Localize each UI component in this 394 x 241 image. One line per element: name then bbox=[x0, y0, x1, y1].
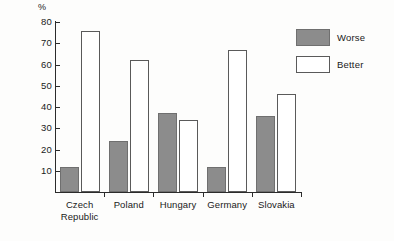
y-axis-tick bbox=[55, 65, 60, 66]
legend-label: Better bbox=[337, 59, 364, 70]
y-axis-tick-label: 60 bbox=[12, 59, 52, 70]
category-label-hungary: Hungary bbox=[153, 199, 202, 211]
y-axis-tick-label: 50 bbox=[12, 80, 52, 91]
y-axis-tick-label: 10 bbox=[12, 165, 52, 176]
category-label-line: Hungary bbox=[153, 199, 202, 211]
legend-swatch-worse bbox=[296, 29, 330, 46]
y-axis-tick-label: 70 bbox=[12, 37, 52, 48]
legend-item-worse[interactable]: Worse bbox=[296, 26, 365, 48]
y-axis-tick-label: 80 bbox=[12, 16, 52, 27]
bar-worse-germany bbox=[207, 167, 226, 193]
y-axis-tick bbox=[55, 150, 60, 151]
chart-legend: WorseBetter bbox=[296, 26, 365, 80]
y-axis-tick bbox=[55, 128, 60, 129]
legend-label: Worse bbox=[337, 32, 365, 43]
y-axis-tick bbox=[55, 43, 60, 44]
y-axis-tick-label: 20 bbox=[12, 144, 52, 155]
category-label-germany: Germany bbox=[203, 199, 252, 211]
category-label-line: Republic bbox=[55, 211, 104, 223]
bar-better-germany bbox=[228, 50, 247, 192]
bar-better-poland bbox=[130, 60, 149, 192]
x-axis-tick bbox=[252, 192, 253, 197]
category-label-poland: Poland bbox=[104, 199, 153, 211]
bar-worse-czech-republic bbox=[60, 167, 79, 193]
bar-worse-slovakia bbox=[256, 116, 275, 193]
y-axis-unit-label: % bbox=[38, 2, 46, 12]
category-label-slovakia: Slovakia bbox=[252, 199, 301, 211]
bar-worse-hungary bbox=[158, 113, 177, 192]
y-axis-tick bbox=[55, 107, 60, 108]
chart-page: % 1020304050607080 CzechRepublicPolandHu… bbox=[0, 0, 394, 241]
category-label-line: Germany bbox=[203, 199, 252, 211]
x-axis-tick bbox=[203, 192, 204, 197]
category-label-line: Poland bbox=[104, 199, 153, 211]
y-axis-tick bbox=[55, 22, 60, 23]
legend-swatch-better bbox=[296, 56, 330, 73]
x-axis-tick-end bbox=[301, 192, 302, 197]
x-axis-line bbox=[55, 192, 301, 193]
category-label-line: Slovakia bbox=[252, 199, 301, 211]
y-axis-tick-label: 30 bbox=[12, 122, 52, 133]
x-axis-tick bbox=[153, 192, 154, 197]
y-axis-tick bbox=[55, 86, 60, 87]
bar-better-hungary bbox=[179, 120, 198, 192]
bar-better-slovakia bbox=[277, 94, 296, 192]
bar-worse-poland bbox=[109, 141, 128, 192]
category-label-line: Czech bbox=[55, 199, 104, 211]
x-axis-tick bbox=[104, 192, 105, 197]
category-label-czech-republic: CzechRepublic bbox=[55, 199, 104, 222]
legend-item-better[interactable]: Better bbox=[296, 53, 365, 75]
y-axis-tick-label: 40 bbox=[12, 101, 52, 112]
bar-better-czech-republic bbox=[81, 31, 100, 193]
